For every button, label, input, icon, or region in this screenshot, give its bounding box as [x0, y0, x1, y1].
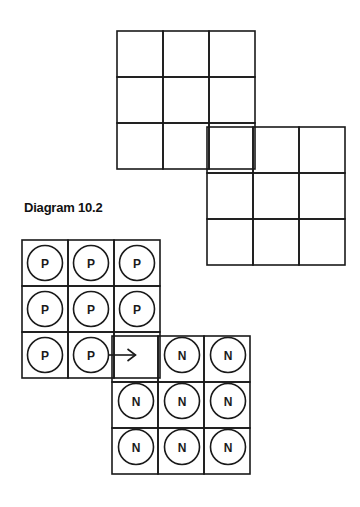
piece-label: P	[87, 303, 95, 317]
top-grid-cell	[253, 127, 299, 173]
piece-label: P	[87, 257, 95, 271]
top-grid-cell	[207, 127, 253, 173]
piece-p: P	[28, 246, 63, 281]
top-grid-cell	[117, 77, 163, 123]
top-grid-cell	[299, 173, 345, 219]
piece-p: P	[28, 338, 63, 373]
piece-p: P	[120, 246, 155, 281]
piece-label: N	[178, 441, 187, 455]
piece-label: N	[224, 349, 233, 363]
piece-n: N	[211, 384, 246, 419]
piece-p: P	[28, 292, 63, 327]
piece-n: N	[165, 384, 200, 419]
top-grid-cell	[253, 173, 299, 219]
piece-label: P	[41, 349, 49, 363]
top-grid-cell	[117, 31, 163, 77]
top-grid-cell	[163, 31, 209, 77]
bottom-grid-cell	[112, 336, 158, 382]
top-grid-cell	[207, 173, 253, 219]
piece-p: P	[74, 338, 109, 373]
top-grid-cell	[209, 123, 255, 169]
top-grid-cell	[209, 77, 255, 123]
top-grid-cell	[253, 219, 299, 265]
top-grid-cell	[209, 31, 255, 77]
top-grid-cell	[163, 123, 209, 169]
piece-n: N	[165, 338, 200, 373]
piece-label: N	[178, 395, 187, 409]
piece-label: P	[87, 349, 95, 363]
top-empty-grid	[117, 31, 345, 265]
piece-label: P	[133, 257, 141, 271]
piece-n: N	[165, 430, 200, 465]
diagram-canvas: PPPPPPPPNNNNNNNN	[0, 0, 360, 507]
piece-label: P	[41, 257, 49, 271]
piece-label: P	[133, 303, 141, 317]
top-grid-cell	[299, 127, 345, 173]
piece-n: N	[119, 384, 154, 419]
piece-p: P	[74, 246, 109, 281]
piece-n: N	[211, 430, 246, 465]
piece-p: P	[120, 292, 155, 327]
piece-label: N	[224, 395, 233, 409]
piece-label: N	[178, 349, 187, 363]
top-grid-cell	[299, 219, 345, 265]
piece-label: N	[132, 395, 141, 409]
top-grid-cell	[117, 123, 163, 169]
top-grid-cell	[163, 77, 209, 123]
piece-p: P	[74, 292, 109, 327]
top-grid-cell	[207, 219, 253, 265]
piece-label: P	[41, 303, 49, 317]
piece-n: N	[119, 430, 154, 465]
piece-label: N	[224, 441, 233, 455]
piece-label: N	[132, 441, 141, 455]
piece-n: N	[211, 338, 246, 373]
